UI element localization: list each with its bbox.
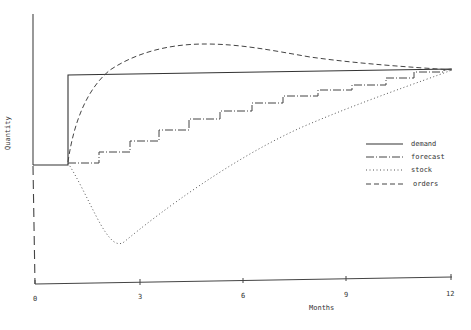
- legend-label-demand: demand: [411, 140, 436, 148]
- chart-canvas: [0, 0, 471, 330]
- legend-label-forecast: forecast: [411, 153, 445, 161]
- x-axis-label: Months: [309, 304, 334, 312]
- x-tick-label-3: 3: [138, 293, 142, 301]
- series-forecast: [68, 69, 452, 163]
- x-tick-label-12: 12: [446, 290, 454, 298]
- legend-swatches: [366, 144, 403, 184]
- y-axis-orders-segment: [33, 166, 35, 284]
- x-tick-label-9: 9: [344, 291, 348, 299]
- x-tick-label-6: 6: [241, 292, 245, 300]
- legend-label-orders: orders: [413, 180, 438, 188]
- legend-label-stock: stock: [411, 166, 432, 174]
- y-axis-label: Quantity: [4, 116, 12, 150]
- x-tick-label-0: 0: [33, 295, 37, 303]
- series-demand: [33, 69, 452, 165]
